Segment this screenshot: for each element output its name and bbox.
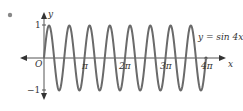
x-axis-label: x — [228, 60, 233, 69]
y-axis-up-arrow-icon — [41, 12, 47, 19]
x-axis-left-arrow-icon — [20, 55, 27, 61]
y-tick-1: 1 — [35, 21, 41, 30]
x-axis-right-arrow-icon — [219, 55, 226, 61]
y-tick-neg1: −1 — [27, 86, 40, 95]
equation-label: y = sin 4x — [198, 33, 243, 42]
y-axis-down-arrow-icon — [41, 93, 47, 100]
x-tick-pi: π — [82, 62, 88, 71]
y-axis-label: y — [48, 10, 53, 19]
origin-label: O — [35, 60, 42, 69]
x-tick-3pi: 3π — [160, 62, 172, 71]
bullet-icon — [8, 13, 12, 17]
x-tick-4pi: 4π — [201, 62, 213, 71]
x-tick-2pi: 2π — [119, 62, 131, 71]
